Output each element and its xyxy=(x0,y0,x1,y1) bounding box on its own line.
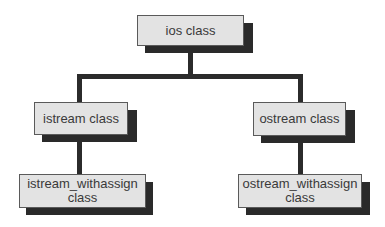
connector-to-ostream xyxy=(298,74,303,104)
ostream-class-label: ostream class xyxy=(259,112,339,126)
ostream-withassign-label-line1: ostream_withassign xyxy=(243,177,358,191)
ios-class-node: ios class xyxy=(137,15,244,46)
istream-class-node: istream class xyxy=(34,102,128,135)
istream-withassign-label-line2: class xyxy=(68,191,98,205)
ostream-withassign-class-node: ostream_withassign class xyxy=(238,174,362,208)
istream-withassign-class-node: istream_withassign class xyxy=(19,174,146,208)
ostream-withassign-label-line2: class xyxy=(285,191,315,205)
connector-horizontal-bar xyxy=(77,74,303,79)
ios-class-label: ios class xyxy=(166,24,216,38)
istream-class-label: istream class xyxy=(43,112,119,126)
ostream-class-node: ostream class xyxy=(253,102,346,136)
connector-to-istream xyxy=(77,74,82,104)
istream-withassign-label-line1: istream_withassign xyxy=(27,177,138,191)
